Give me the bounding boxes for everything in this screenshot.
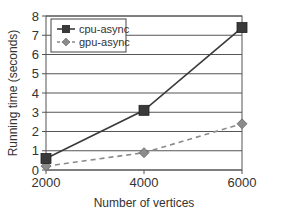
legend-label: gpu-async: [79, 36, 130, 48]
x-axis-ticks: 200040006000: [32, 170, 257, 190]
y-axis-ticks: 012345678: [32, 9, 46, 178]
y-tick-label: 8: [32, 9, 39, 24]
chart-canvas: 012345678 200040006000 cpu-asyncgpu-asyn…: [0, 0, 296, 216]
y-axis-label: Running time (seconds): [6, 30, 20, 157]
y-tick-label: 5: [32, 66, 39, 81]
x-tick-label: 2000: [32, 175, 61, 190]
x-tick-label: 4000: [130, 175, 159, 190]
y-tick-label: 6: [32, 47, 39, 62]
legend: cpu-asyncgpu-async: [51, 19, 130, 52]
square-marker: [139, 105, 149, 115]
y-tick-label: 1: [32, 143, 39, 158]
x-tick-label: 6000: [228, 175, 257, 190]
square-marker: [41, 153, 51, 163]
square-marker-icon: [62, 25, 70, 33]
square-marker: [237, 23, 247, 33]
y-tick-label: 4: [32, 86, 39, 101]
y-tick-label: 3: [32, 105, 39, 120]
y-tick-label: 7: [32, 28, 39, 43]
x-axis-label: Number of vertices: [94, 196, 195, 210]
legend-label: cpu-async: [79, 23, 130, 35]
diamond-marker: [237, 119, 247, 129]
diamond-marker: [139, 148, 149, 158]
y-tick-label: 2: [32, 124, 39, 139]
line-chart: 012345678 200040006000 cpu-asyncgpu-asyn…: [0, 0, 296, 216]
series-line: [46, 124, 242, 166]
